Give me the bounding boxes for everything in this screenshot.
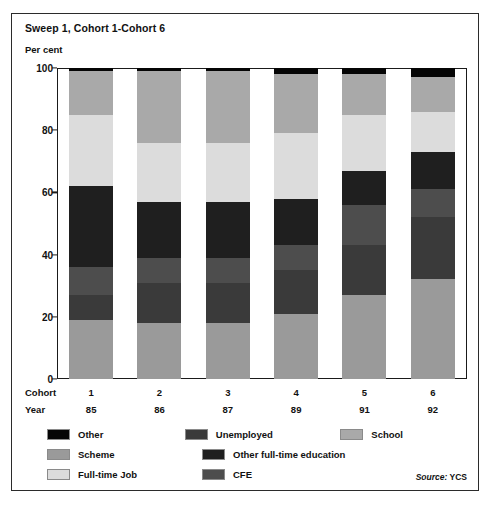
cohort-value: 3 (206, 384, 250, 401)
bar-segment (137, 323, 181, 379)
bar-segment (137, 143, 181, 202)
bar-segment (206, 202, 250, 258)
chart-figure: Sweep 1, Cohort 1-Cohort 6 Per cent 0204… (11, 13, 479, 491)
source-prefix: Source: (416, 472, 448, 482)
legend-swatch (340, 429, 363, 440)
legend-item: Scheme (47, 444, 202, 464)
cohort-value: 6 (411, 384, 455, 401)
cohort-value: 2 (137, 384, 181, 401)
bar-segment (342, 295, 386, 379)
bar-segment (206, 283, 250, 323)
legend-label: Scheme (78, 449, 114, 460)
bar-segment (206, 323, 250, 379)
bar-segment (342, 205, 386, 245)
legend-label: Other full-time education (233, 449, 345, 460)
legend-swatch (47, 429, 70, 440)
bar-segment (69, 71, 113, 115)
cohort-value: 1 (69, 384, 113, 401)
bar-segment (137, 202, 181, 258)
bar-segment (69, 115, 113, 187)
bar-segment (274, 245, 318, 270)
bar-segment (137, 71, 181, 143)
year-value: 87 (206, 401, 250, 418)
bar-segment (274, 199, 318, 246)
legend-swatch (202, 469, 225, 480)
year-value: 91 (342, 401, 386, 418)
bar-segment (411, 68, 455, 77)
y-axis-tick-label: 80 (29, 125, 53, 136)
legend-swatch (185, 429, 208, 440)
plot-area: 020406080100 (57, 68, 467, 379)
bar-segment (411, 279, 455, 379)
year-row: Year 858687899192 (25, 401, 467, 418)
bar-segment (206, 143, 250, 202)
y-axis-tick-mark (52, 67, 57, 68)
year-value: 89 (274, 401, 318, 418)
cohort-value: 5 (342, 384, 386, 401)
y-axis-tick-mark (52, 378, 57, 379)
bar-group (57, 68, 467, 379)
y-axis-tick-mark (52, 254, 57, 255)
year-values: 858687899192 (57, 401, 467, 418)
cohort-row: Cohort 123456 (25, 384, 467, 401)
y-axis-tick-label: 60 (29, 187, 53, 198)
legend-item: CFE (202, 464, 377, 484)
legend-swatch (202, 449, 225, 460)
bar-segment (411, 217, 455, 279)
bar-segment (342, 171, 386, 205)
legend-item: Other full-time education (202, 444, 377, 464)
y-axis-tick-mark (52, 192, 57, 193)
stacked-bar (342, 68, 386, 379)
y-axis-tick-mark (52, 130, 57, 131)
legend-swatch (47, 449, 70, 460)
bar-segment (206, 258, 250, 283)
y-axis-tick-label: 100 (29, 63, 53, 74)
bar-segment (411, 152, 455, 189)
bar-segment (411, 189, 455, 217)
y-axis-tick-mark (52, 316, 57, 317)
legend-item: School (340, 424, 447, 444)
bar-segment (342, 245, 386, 295)
legend-row: Full-time JobCFE (47, 464, 447, 484)
bar-segment (274, 270, 318, 314)
source-note: Source: YCS (416, 472, 467, 482)
legend-label: Other (78, 429, 103, 440)
cohort-value: 4 (274, 384, 318, 401)
legend: OtherUnemployedSchoolSchemeOther full-ti… (47, 424, 447, 484)
bar-segment (342, 115, 386, 171)
legend-item: Full-time Job (47, 464, 202, 484)
bar-segment (274, 314, 318, 379)
stacked-bar (69, 68, 113, 379)
legend-label: CFE (233, 469, 252, 480)
bar-segment (411, 77, 455, 111)
bar-segment (137, 283, 181, 323)
y-axis-tick-label: 20 (29, 311, 53, 322)
y-axis-tick-label: 40 (29, 249, 53, 260)
stacked-bar (274, 68, 318, 379)
y-axis-tick-label: 0 (29, 374, 53, 385)
stacked-bar (137, 68, 181, 379)
page-title: Sweep 1, Cohort 1-Cohort 6 (25, 22, 165, 34)
legend-row: OtherUnemployedSchool (47, 424, 447, 444)
category-axis: Cohort 123456 Year 858687899192 (25, 384, 467, 418)
legend-swatch (47, 469, 70, 480)
legend-item: Other (47, 424, 185, 444)
bar-segment (69, 186, 113, 267)
bar-segment (274, 74, 318, 133)
year-value: 86 (137, 401, 181, 418)
y-axis-unit-label: Per cent (25, 44, 63, 55)
bar-segment (69, 267, 113, 295)
bar-segment (206, 71, 250, 143)
stacked-bar (206, 68, 250, 379)
year-value: 92 (411, 401, 455, 418)
bar-segment (69, 320, 113, 379)
legend-item: Unemployed (185, 424, 341, 444)
stacked-bar (411, 68, 455, 379)
cohort-values: 123456 (57, 384, 467, 401)
bar-segment (411, 112, 455, 152)
year-value: 85 (69, 401, 113, 418)
legend-label: Unemployed (216, 429, 273, 440)
bar-segment (69, 295, 113, 320)
source-value: YCS (450, 472, 467, 482)
legend-label: Full-time Job (78, 469, 137, 480)
